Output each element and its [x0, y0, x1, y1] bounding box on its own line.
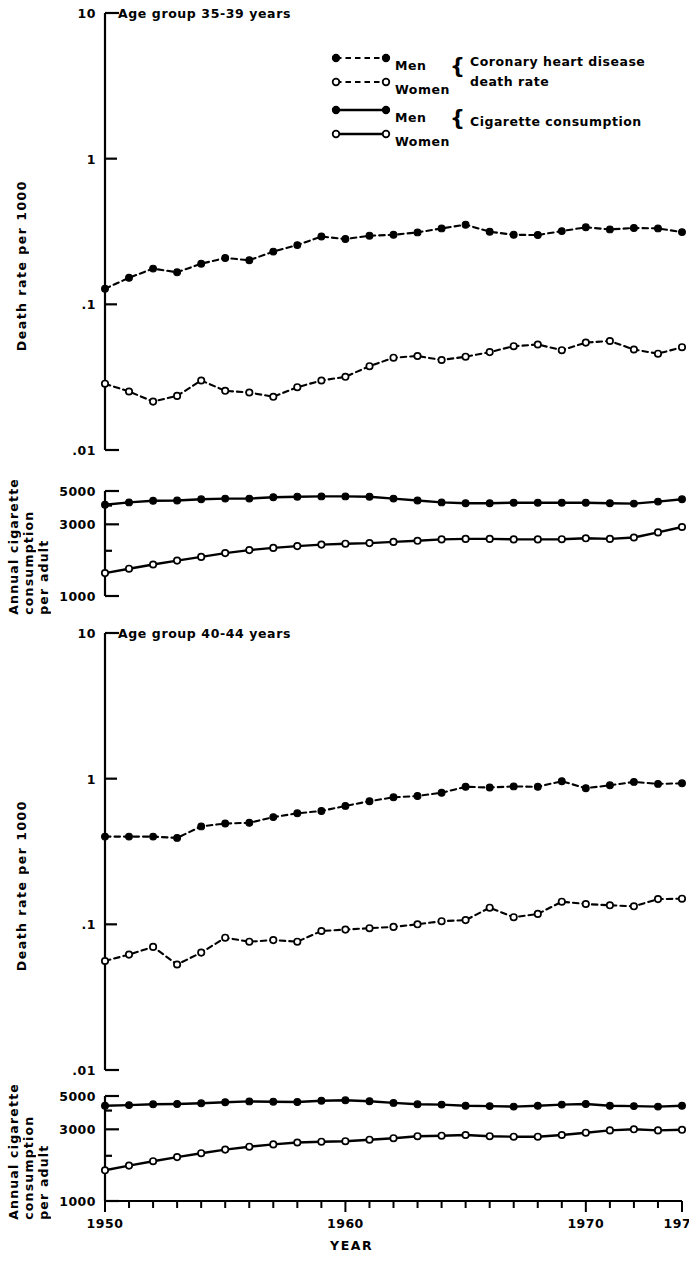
svg-text:.01: .01	[72, 443, 96, 458]
legend-label-men-cig: Men	[395, 110, 426, 125]
panel-title-35-39: Age group 35-39 years	[118, 6, 291, 21]
panel-cig-40-44: Annual cigarette consumption per adult 5…	[0, 1075, 689, 1261]
axis-label-death-rate-bottom: Death rate per 1000	[14, 800, 29, 971]
svg-text:1970: 1970	[567, 1216, 604, 1231]
svg-text:3000: 3000	[59, 517, 96, 532]
brace-cig-icon: {	[450, 106, 465, 130]
svg-text:3000: 3000	[59, 1122, 96, 1137]
panel-title-40-44: Age group 40-44 years	[118, 626, 291, 641]
axis-label-cig-top: Annual cigarette consumption per adult	[6, 478, 51, 615]
svg-text:.1: .1	[82, 917, 96, 932]
panel-chd-40-44: Death rate per 1000 101.1.01 Age group 4…	[0, 620, 689, 1090]
svg-text:1000: 1000	[59, 1194, 96, 1209]
brace-chd-icon: {	[450, 54, 465, 78]
svg-text:10: 10	[78, 6, 96, 21]
legend-label-men-chd: Men	[395, 58, 426, 73]
cig-40-44-plot: 5000300010001950196019701974	[0, 1075, 689, 1261]
legend: Men Women Men Women { Coronary heart dis…	[330, 28, 689, 140]
svg-text:1974: 1974	[664, 1216, 689, 1231]
svg-text:1: 1	[87, 772, 96, 787]
legend-group-cig: Cigarette consumption	[470, 114, 642, 129]
legend-label-women-cig: Women	[395, 134, 450, 149]
legend-label-women-chd: Women	[395, 82, 450, 97]
chd-40-44-plot: 101.1.01	[0, 620, 689, 1090]
svg-text:1960: 1960	[327, 1216, 364, 1231]
cig-35-39-plot: 500030001000	[0, 470, 689, 610]
svg-text:5000: 5000	[59, 1089, 96, 1104]
legend-group-chd-line1: Coronary heart disease	[470, 54, 645, 69]
svg-text:.1: .1	[82, 297, 96, 312]
svg-text:1950: 1950	[87, 1216, 124, 1231]
svg-text:10: 10	[78, 626, 96, 641]
panel-cig-35-39: Annual cigarette consumption per adult 5…	[0, 470, 689, 610]
svg-text:1000: 1000	[59, 589, 96, 604]
svg-text:1: 1	[87, 152, 96, 167]
axis-label-cig-bottom: Annual cigarette consumption per adult	[6, 1083, 51, 1220]
legend-group-chd-line2: death rate	[470, 74, 549, 89]
svg-text:5000: 5000	[59, 484, 96, 499]
axis-label-year: YEAR	[330, 1238, 373, 1253]
axis-label-death-rate-top: Death rate per 1000	[14, 180, 29, 351]
